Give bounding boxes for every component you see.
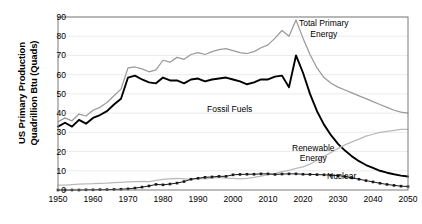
annotation-line: Fossil Fuels — [207, 104, 252, 115]
nuclear-label: Nuclear — [327, 171, 356, 182]
annotation-line: Energy — [299, 29, 349, 40]
series-marker — [218, 175, 221, 178]
series-marker — [267, 173, 270, 176]
series-marker — [162, 184, 165, 187]
annotation-line: Total Primary — [299, 18, 349, 29]
series-marker — [253, 173, 256, 176]
y-axis-title: US Primary Production Quadrillion Btu (Q… — [16, 0, 50, 188]
fossil-fuels-label: Fossil Fuels — [207, 104, 252, 115]
series-line-fossil-fuels — [58, 55, 408, 176]
series-marker — [232, 174, 235, 177]
series-marker — [246, 173, 249, 176]
series-marker — [386, 183, 389, 186]
series-marker — [190, 178, 193, 181]
series-marker — [141, 186, 144, 189]
series-marker — [274, 173, 277, 176]
series-marker — [309, 173, 312, 176]
renewable-energy-label: RenewableEnergy — [292, 143, 335, 164]
series-marker — [288, 173, 291, 176]
series-marker — [148, 185, 151, 188]
annotation-line: Nuclear — [327, 171, 356, 182]
y-axis-title-line-1: US Primary Production — [16, 0, 28, 188]
series-marker — [155, 183, 158, 186]
series-marker — [260, 173, 263, 176]
chart-container: US Primary Production Quadrillion Btu (Q… — [0, 0, 422, 224]
annotation-line: Renewable — [292, 143, 335, 154]
series-marker — [211, 176, 214, 179]
series-marker — [295, 173, 298, 176]
annotation-line: Energy — [292, 153, 335, 164]
series-marker — [316, 173, 319, 176]
series-marker — [372, 181, 375, 184]
series-marker — [134, 187, 137, 190]
series-marker — [197, 177, 200, 180]
series-marker — [302, 173, 305, 176]
series-marker — [323, 174, 326, 177]
series-marker — [281, 173, 284, 176]
series-marker — [225, 175, 228, 178]
series-marker — [183, 180, 186, 183]
series-marker — [365, 179, 368, 182]
series-marker — [379, 182, 382, 185]
series-marker — [204, 176, 207, 179]
series-marker — [358, 178, 361, 181]
series-marker — [393, 184, 396, 187]
total-primary-energy-label: Total PrimaryEnergy — [299, 18, 349, 39]
series-marker — [169, 183, 172, 186]
series-marker — [176, 182, 179, 185]
series-marker — [239, 173, 242, 176]
y-axis-title-line-2: Quadrillion Btu (Quads) — [28, 0, 40, 188]
series-marker — [400, 185, 403, 188]
